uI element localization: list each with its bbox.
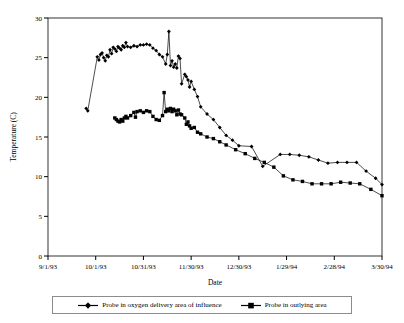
- data-point-diamond: [326, 161, 330, 165]
- data-point-diamond: [186, 78, 190, 82]
- x-axis-tick-label: 2/28/94: [324, 263, 346, 271]
- data-point-square: [175, 113, 178, 116]
- data-point-square: [282, 174, 285, 177]
- data-point-diamond: [103, 59, 107, 63]
- data-point-diamond: [129, 45, 133, 49]
- data-point-square: [129, 114, 132, 117]
- data-point-square: [135, 110, 138, 113]
- y-axis-title: Temperature (C): [9, 112, 18, 162]
- temperature-line-chart: 0510152025309/1/9310/1/9310/31/9311/30/9…: [0, 0, 404, 323]
- data-point-square: [126, 116, 129, 119]
- legend-item-oxygen-probe[interactable]: Probe in oxygen delivery area of influen…: [77, 301, 221, 310]
- data-point-diamond: [172, 65, 176, 69]
- data-point-square: [196, 131, 199, 134]
- data-point-square: [154, 118, 157, 121]
- data-point-square: [253, 157, 256, 160]
- y-axis-tick-label: 20: [35, 94, 43, 102]
- data-point-square: [139, 109, 142, 112]
- data-point-diamond: [288, 153, 292, 157]
- data-point-diamond: [169, 64, 173, 68]
- data-point-square: [169, 107, 172, 110]
- data-point-diamond: [95, 55, 99, 59]
- data-point-square: [142, 111, 145, 114]
- chart-container: 0510152025309/1/9310/1/9310/31/9311/30/9…: [0, 0, 404, 323]
- data-point-diamond: [278, 153, 282, 157]
- y-axis-tick-label: 25: [35, 54, 43, 62]
- data-point-square: [272, 165, 275, 168]
- data-point-square: [121, 119, 124, 122]
- data-point-diamond: [173, 62, 177, 66]
- data-point-diamond: [164, 62, 168, 66]
- data-point-diamond: [132, 44, 136, 48]
- x-axis-tick-label: 11/30/93: [179, 263, 204, 271]
- data-point-diamond: [188, 85, 192, 89]
- data-point-square: [151, 115, 154, 118]
- data-point-diamond: [261, 164, 265, 168]
- data-point-diamond: [135, 45, 139, 49]
- data-point-diamond: [110, 52, 114, 56]
- square-marker-icon: [240, 301, 262, 310]
- data-point-square: [148, 110, 151, 113]
- data-point-square: [263, 161, 266, 164]
- data-point-square: [369, 188, 372, 191]
- data-point-square: [380, 194, 383, 197]
- data-point-square: [339, 181, 342, 184]
- data-point-square: [310, 182, 313, 185]
- data-point-square: [189, 127, 192, 130]
- data-point-square: [158, 119, 161, 122]
- data-point-square: [162, 91, 165, 94]
- x-axis-tick-label: 1/29/94: [276, 263, 298, 271]
- chart-legend: Probe in oxygen delivery area of influen…: [52, 296, 352, 314]
- data-point-diamond: [167, 30, 171, 34]
- data-point-square: [183, 116, 186, 119]
- y-axis-tick-label: 10: [35, 173, 43, 181]
- data-point-diamond: [108, 48, 112, 52]
- data-point-diamond: [97, 58, 101, 62]
- data-point-diamond: [142, 43, 146, 47]
- data-point-square: [348, 181, 351, 184]
- data-point-diamond: [345, 160, 349, 164]
- data-point-diamond: [250, 145, 254, 149]
- data-point-diamond: [192, 88, 196, 92]
- data-point-diamond: [297, 153, 301, 157]
- data-point-square: [218, 140, 221, 143]
- data-point-square: [132, 111, 135, 114]
- data-point-square: [177, 108, 180, 111]
- data-point-diamond: [124, 41, 128, 45]
- data-point-diamond: [180, 82, 184, 86]
- data-point-diamond: [102, 56, 106, 60]
- data-point-square: [234, 148, 237, 151]
- x-axis-tick-label: 12/30/93: [226, 263, 251, 271]
- data-point-square: [180, 113, 183, 116]
- data-point-square: [291, 178, 294, 181]
- y-axis-tick-label: 15: [35, 134, 43, 142]
- data-point-diamond: [316, 158, 320, 162]
- legend-item-outlying-probe[interactable]: Probe in outlying area: [240, 301, 327, 310]
- data-point-square: [145, 109, 148, 112]
- legend-label-oxygen-probe: Probe in oxygen delivery area of influen…: [102, 301, 221, 309]
- data-point-square: [205, 135, 208, 138]
- data-point-square: [329, 182, 332, 185]
- x-axis-title: Date: [208, 278, 223, 287]
- y-axis-tick-label: 30: [35, 15, 43, 23]
- data-point-diamond: [145, 42, 149, 46]
- data-point-square: [224, 143, 227, 146]
- x-axis-tick-label: 10/31/93: [131, 263, 156, 271]
- data-point-square: [174, 109, 177, 112]
- series-line-1: [115, 93, 382, 196]
- data-point-square: [320, 182, 323, 185]
- data-point-diamond: [170, 59, 174, 63]
- data-point-diamond: [165, 53, 169, 57]
- y-axis-tick-label: 0: [39, 253, 43, 261]
- data-point-diamond: [336, 160, 340, 164]
- data-point-square: [134, 115, 137, 118]
- data-point-square: [193, 126, 196, 129]
- y-axis-tick-label: 5: [39, 213, 43, 221]
- data-point-square: [244, 152, 247, 155]
- legend-label-outlying-probe: Probe in outlying area: [265, 301, 327, 309]
- data-point-diamond: [196, 95, 200, 99]
- data-point-square: [199, 132, 202, 135]
- x-axis-tick-label: 9/1/93: [39, 263, 57, 271]
- data-point-square: [358, 182, 361, 185]
- data-point-square: [186, 120, 189, 123]
